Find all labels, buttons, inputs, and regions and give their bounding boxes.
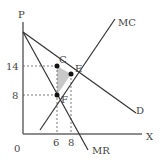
point-c-label: C <box>59 54 67 65</box>
y-tick-8: 8 <box>12 90 18 101</box>
point-f <box>55 93 60 98</box>
mc-label: MC <box>118 17 136 28</box>
monopoly-diagram: P X 0 14 8 6 8 MC D MR C E F <box>0 0 165 166</box>
mr-curve <box>23 32 88 150</box>
deadweight-loss-area <box>57 66 71 95</box>
mc-curve <box>40 19 115 130</box>
x-axis-label: X <box>146 131 154 142</box>
point-e-label: E <box>75 63 82 74</box>
y-tick-14: 14 <box>6 61 19 72</box>
demand-label: D <box>136 105 144 116</box>
mr-label: MR <box>92 145 110 156</box>
x-tick-6: 6 <box>53 137 59 148</box>
x-tick-8: 8 <box>68 137 74 148</box>
origin-label: 0 <box>14 143 20 154</box>
y-axis-label: P <box>18 9 25 20</box>
point-e <box>69 72 74 77</box>
point-f-label: F <box>61 94 68 105</box>
